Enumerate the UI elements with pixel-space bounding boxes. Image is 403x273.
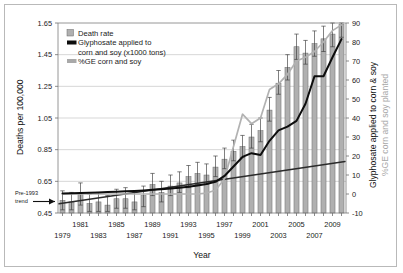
- annotation-line-2: trend: [15, 198, 28, 204]
- legend-item-ge-corn-soy: %GE corn and soy: [67, 57, 142, 66]
- pre-1993-trend-annotation: Pre-1993 trend: [15, 190, 55, 204]
- right-tick-label: 60: [352, 76, 360, 85]
- right-tick-label: -10: [352, 209, 363, 218]
- x-tick-label: 1991: [162, 231, 178, 240]
- left-axis-title-text: Deaths per 100,000: [15, 79, 25, 155]
- right-tick-label: 90: [352, 19, 360, 28]
- legend-item-glyphosate: Glyphosate applied to corn and soy (x100…: [67, 38, 166, 57]
- x-tick-label: 2001: [252, 220, 268, 229]
- arrow-right-icon: [33, 199, 55, 205]
- figure-frame: 0.450.650.851.051.251.451.65 -1001020304…: [4, 4, 397, 267]
- chart-canvas: 0.450.650.851.051.251.451.65 -1001020304…: [5, 5, 398, 268]
- right-tick-label: 50: [352, 95, 360, 104]
- x-tick-label: 2003: [270, 231, 286, 240]
- x-tick-label: 1997: [216, 220, 232, 229]
- right-tick-label: 20: [352, 152, 360, 161]
- x-tick-label: 1999: [234, 231, 250, 240]
- bar: [267, 110, 272, 213]
- right-tick-label: 80: [352, 38, 360, 47]
- legend-swatch-ge-corn-soy: [67, 59, 77, 63]
- right-tick-label: 10: [352, 171, 360, 180]
- bar: [285, 67, 290, 213]
- bar: [303, 53, 308, 213]
- x-tick-label: 1981: [72, 220, 88, 229]
- right-axis-title-gray: %GE corn and soy planted: [380, 74, 390, 176]
- x-tick-label: 2007: [306, 231, 322, 240]
- bottom-axis-title: Year: [193, 250, 211, 260]
- left-tick-label: 0.45: [38, 209, 52, 218]
- left-tick-label: 1.05: [38, 114, 52, 123]
- x-tick-label: 1989: [144, 220, 160, 229]
- left-tick-label: 0.85: [38, 145, 52, 154]
- bar: [321, 39, 326, 213]
- legend-swatch-death-rate: [67, 30, 74, 37]
- x-tick-label: 1983: [90, 231, 106, 240]
- right-axis-tick-labels: -100102030405060708090: [346, 19, 363, 218]
- bar: [276, 83, 281, 213]
- right-tick-label: 70: [352, 57, 360, 66]
- left-tick-label: 0.65: [38, 177, 52, 186]
- right-tick-label: 0: [352, 190, 356, 199]
- left-tick-label: 1.45: [38, 50, 52, 59]
- right-axis-title-black: Glyphosate applied to corn & soy: [368, 61, 378, 188]
- x-tick-label: 1979: [54, 231, 70, 240]
- legend-label-ge-corn-soy: %GE corn and soy: [78, 57, 142, 66]
- left-tick-label: 1.65: [38, 19, 52, 28]
- bottom-axis-title-text: Year: [193, 250, 211, 260]
- legend-label-death-rate: Death rate: [78, 29, 113, 38]
- right-tick-label: 30: [352, 133, 360, 142]
- right-axis-title-black-text: Glyphosate applied to corn & soy: [368, 61, 378, 188]
- x-tick-label: 1987: [126, 231, 142, 240]
- left-axis-tick-labels: 0.450.650.851.051.251.451.65: [38, 19, 58, 218]
- legend-label-glyphosate: Glyphosate applied to: [78, 38, 151, 47]
- x-tick-label: 2009: [324, 220, 340, 229]
- bar: [312, 44, 317, 213]
- x-tick-label: 1985: [108, 220, 124, 229]
- x-tick-label: 2005: [288, 220, 304, 229]
- x-tick-label: 1995: [198, 231, 214, 240]
- x-tick-label: 1993: [180, 220, 196, 229]
- left-tick-label: 1.25: [38, 82, 52, 91]
- bar: [339, 25, 344, 213]
- legend-swatch-glyphosate: [67, 41, 77, 45]
- left-axis-title: Deaths per 100,000: [15, 79, 25, 155]
- annotation-line-1: Pre-1993: [15, 190, 38, 196]
- x-axis-tick-labels: 1979198119831985198719891991199319951997…: [54, 213, 341, 240]
- right-tick-label: 40: [352, 114, 360, 123]
- right-axis-title-gray-text: %GE corn and soy planted: [380, 74, 390, 176]
- bar: [258, 131, 263, 213]
- bar: [294, 47, 299, 213]
